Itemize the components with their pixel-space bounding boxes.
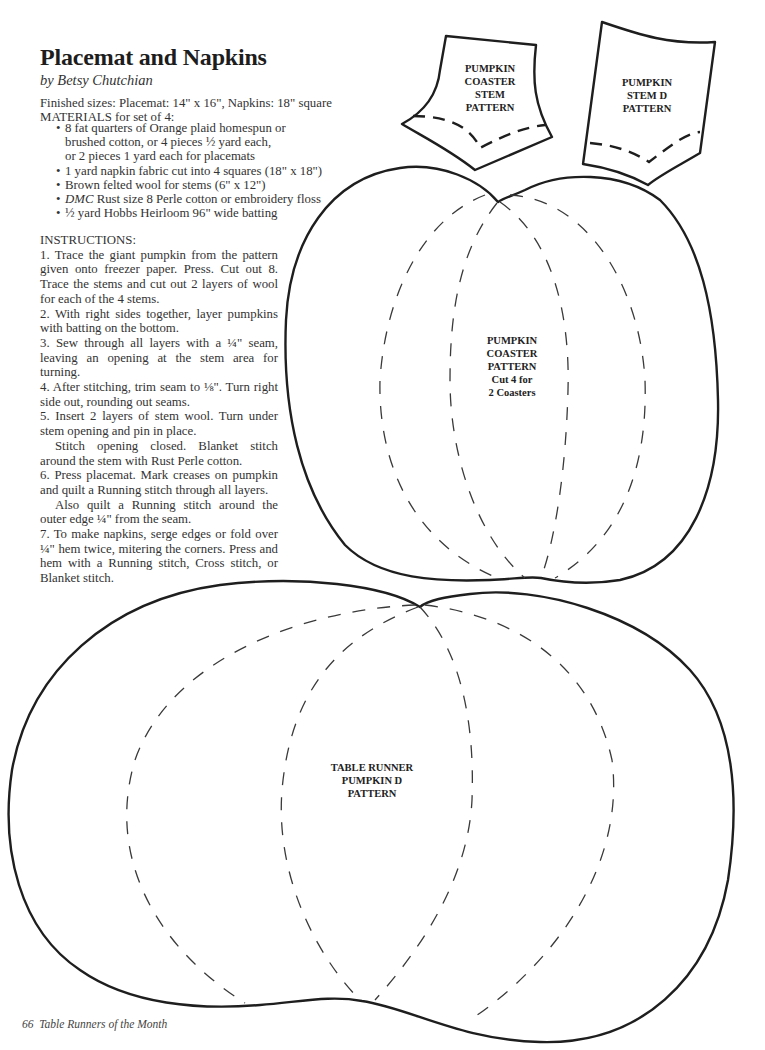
page-footer: 66 Table Runners of the Month xyxy=(22,1018,167,1030)
instruction-step: 6. Press placemat. Mark creases on pumpk… xyxy=(40,468,278,497)
article-title: Placemat and Napkins xyxy=(40,44,267,71)
materials-item: • ½ yard Hobbs Heirloom 96" wide batting xyxy=(56,206,322,220)
coaster-stem-label: PUMPKIN COASTER STEM PATTERN xyxy=(455,62,525,114)
materials-list: • 8 fat quarters of Orange plaid homespu… xyxy=(56,121,322,220)
brand-name: DMC xyxy=(65,192,93,206)
instruction-step: 2. With right sides together, layer pump… xyxy=(40,307,278,336)
instructions: INSTRUCTIONS: 1. Trace the giant pumpkin… xyxy=(40,233,278,586)
instruction-step: 1. Trace the giant pumpkin from the patt… xyxy=(40,248,278,307)
materials-item: • Brown felted wool for stems (6" x 12") xyxy=(56,178,322,192)
materials-item: • 8 fat quarters of Orange plaid homespu… xyxy=(56,121,322,164)
instruction-step: 4. After stitching, trim seam to ⅛". Tur… xyxy=(40,380,278,409)
stem-d-label: PUMPKIN STEM D PATTERN xyxy=(612,76,682,115)
materials-item: • DMC Rust size 8 Perle cotton or embroi… xyxy=(56,192,322,206)
finished-sizes: Finished sizes: Placemat: 14" x 16", Nap… xyxy=(40,96,332,110)
bullet-icon: • xyxy=(56,164,60,178)
bullet-icon: • xyxy=(56,192,60,206)
coaster-pumpkin-label: PUMPKIN COASTER PATTERN Cut 4 for 2 Coas… xyxy=(472,334,552,399)
instruction-step: Stitch opening closed. Blanket stitch ar… xyxy=(40,439,278,468)
bullet-icon: • xyxy=(56,178,60,192)
table-runner-pumpkin-label: TABLE RUNNER PUMPKIN D PATTERN xyxy=(322,761,422,800)
page-number: 66 xyxy=(22,1018,34,1030)
book-title: Table Runners of the Month xyxy=(39,1018,167,1030)
bullet-icon: • xyxy=(56,121,60,135)
instructions-heading: INSTRUCTIONS: xyxy=(40,233,278,248)
instruction-step: 3. Sew through all layers with a ¼" seam… xyxy=(40,336,278,380)
pattern-page: Placemat and Napkins by Betsy Chutchian … xyxy=(0,0,765,1050)
instruction-step: 5. Insert 2 layers of stem wool. Turn un… xyxy=(40,409,278,438)
instruction-step: Also quilt a Running stitch around the o… xyxy=(40,498,278,527)
article-byline: by Betsy Chutchian xyxy=(40,72,153,89)
instruction-step: 7. To make napkins, serge edges or fold … xyxy=(40,527,278,586)
materials-item: • 1 yard napkin fabric cut into 4 square… xyxy=(56,164,322,178)
table-runner-pumpkin-shape xyxy=(9,581,734,1042)
bullet-icon: • xyxy=(56,206,60,220)
